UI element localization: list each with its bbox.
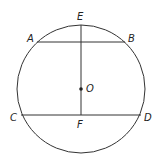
center-point-o	[79, 87, 83, 91]
circle-chords-diagram: E A B O C F D	[0, 0, 157, 164]
label-f: F	[77, 119, 83, 130]
label-d: D	[144, 112, 152, 123]
label-a: A	[26, 33, 34, 44]
label-b: B	[128, 33, 135, 44]
label-c: C	[10, 112, 17, 123]
label-e: E	[77, 11, 84, 22]
label-o: O	[86, 83, 94, 94]
